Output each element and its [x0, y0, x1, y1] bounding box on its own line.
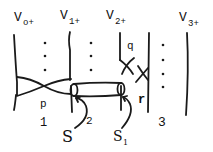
svg-text:V: V: [179, 10, 187, 25]
label-s1-subscript: 1: [123, 138, 128, 147]
ellipsis-dots-2: [90, 42, 93, 72]
strand-label-v1: V 1+: [60, 8, 80, 27]
crossing-r: [136, 66, 148, 82]
diagram-canvas: V o+ V 1+ V 2+ V 3+ q p: [0, 0, 213, 152]
label-s1: S: [113, 128, 123, 144]
label-s: S: [62, 127, 73, 146]
strand-label-v3: V 3+: [179, 10, 199, 29]
strand-label-v0: V o+: [14, 10, 34, 28]
strand-v2-line: [120, 33, 121, 110]
svg-text:V: V: [14, 10, 22, 25]
svg-text:1+: 1+: [69, 17, 80, 27]
crossing-q: [120, 58, 134, 74]
arrow-to-s1: [122, 97, 131, 128]
label-1: 1: [40, 116, 47, 130]
strand-label-v2: V 2+: [106, 8, 126, 27]
label-q: q: [127, 40, 134, 52]
label-r: r: [138, 93, 145, 107]
svg-text:V: V: [60, 8, 68, 23]
tube-s: [71, 83, 125, 97]
svg-text:V: V: [106, 8, 114, 23]
strand-v0-line: [14, 35, 17, 110]
crossing-p: [17, 77, 71, 96]
ellipsis-dots-3: [162, 44, 165, 89]
label-2: 2: [86, 115, 93, 127]
strand-v3-line: [186, 33, 188, 115]
label-3: 3: [158, 115, 166, 130]
strand-v2b-line: [148, 33, 149, 112]
ellipsis-dots-1: [44, 42, 47, 72]
strand-v1-line: [69, 32, 72, 112]
svg-text:o+: o+: [23, 18, 34, 28]
label-p: p: [40, 98, 47, 110]
svg-text:2+: 2+: [115, 17, 126, 27]
svg-text:3+: 3+: [188, 19, 199, 29]
